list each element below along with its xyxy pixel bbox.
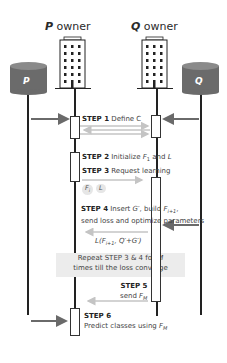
repeat-note: Repeat STEP 3 & 4 for M times till the l… [56, 253, 185, 277]
diagram-graphics [0, 0, 227, 363]
p-owner-activation-step6 [70, 308, 80, 336]
param-pill-l: L [96, 184, 106, 193]
step5-text: STEP 5 send FM [120, 281, 147, 303]
step2-text: STEP 2 Initialize F1 and L [82, 152, 172, 164]
step1-text: STEP 1 Define C [82, 114, 141, 124]
step4-loss-label: L(Fi+1, Q′+G′) [95, 236, 142, 248]
q-owner-activation-step1 [151, 115, 161, 138]
step4-text: STEP 4 Insert G′, build Fi+1, send loss … [81, 204, 204, 226]
p-database-label: P [23, 76, 30, 86]
p-owner-activation-step2-3 [70, 152, 80, 182]
q-owner-building-icon [137, 37, 173, 89]
p-owner-activation-step1 [70, 116, 80, 139]
step6-text: STEP 6 Predict classes using FM [84, 311, 167, 333]
p-owner-building-icon [55, 37, 91, 89]
q-database-label: Q [195, 76, 203, 86]
q-owner-activation-step3-5 [151, 177, 161, 302]
step3-text: STEP 3 Request learning [82, 166, 171, 176]
